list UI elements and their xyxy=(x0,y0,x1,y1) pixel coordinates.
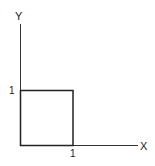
x-axis-label: X xyxy=(140,140,148,152)
y-axis-label: Y xyxy=(15,10,23,22)
unit-square-diagram: Y X 1 1 xyxy=(0,0,155,166)
x-tick-label: 1 xyxy=(70,148,76,159)
unit-square xyxy=(21,91,74,146)
y-tick-label: 1 xyxy=(9,85,15,96)
